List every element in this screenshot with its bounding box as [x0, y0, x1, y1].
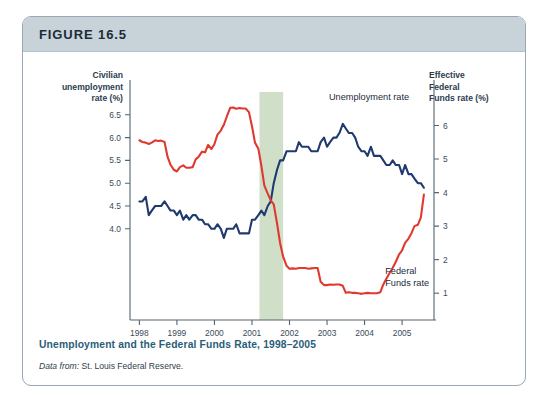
annotation-federal-funds-rate: FederalFunds rate — [385, 266, 429, 288]
left-axis-tick-label: 6.5 — [109, 110, 121, 120]
figure-source: Data from: St. Louis Federal Reserve. — [39, 361, 183, 371]
right-axis-tick-label: 4 — [443, 188, 448, 198]
figure-number-label: FIGURE 16.5 — [39, 27, 127, 42]
right-axis-tick-label: 6 — [443, 121, 448, 131]
x-axis-tick-label: 1999 — [168, 328, 187, 337]
x-axis-tick-label: 1998 — [130, 328, 149, 337]
figure-card: FIGURE 16.5 Civilian unemployment rate (… — [22, 16, 526, 386]
figure-header-bar: FIGURE 16.5 — [23, 17, 525, 52]
right-axis-tick-label: 3 — [443, 221, 448, 231]
right-axis-tick-label: 1 — [443, 288, 448, 298]
chart-svg: 6.56.05.55.04.54.06543211998199920002001… — [23, 52, 526, 337]
left-axis-tick-label: 5.0 — [109, 178, 121, 188]
source-text: St. Louis Federal Reserve. — [79, 361, 183, 371]
x-axis-tick-label: 2004 — [355, 328, 374, 337]
chart-plot-area: Civilian unemployment rate (%) Effective… — [23, 52, 526, 337]
x-axis-tick-label: 2005 — [393, 328, 412, 337]
right-axis-tick-label: 2 — [443, 255, 448, 265]
x-axis-tick-label: 2003 — [318, 328, 337, 337]
recession-band — [259, 92, 283, 320]
x-axis-tick-label: 2001 — [243, 328, 262, 337]
left-axis-tick-label: 5.5 — [109, 155, 121, 165]
left-axis-tick-label: 4.0 — [109, 224, 121, 234]
x-axis-tick-label: 2000 — [205, 328, 224, 337]
left-axis-tick-label: 4.5 — [109, 201, 121, 211]
x-axis-tick-label: 2002 — [280, 328, 299, 337]
annotation-unemployment-rate: Unemployment rate — [329, 92, 409, 102]
right-axis-tick-label: 5 — [443, 154, 448, 164]
figure-caption: Unemployment and the Federal Funds Rate,… — [39, 339, 316, 350]
source-prefix: Data from: — [39, 361, 79, 371]
left-axis-tick-label: 6.0 — [109, 133, 121, 143]
